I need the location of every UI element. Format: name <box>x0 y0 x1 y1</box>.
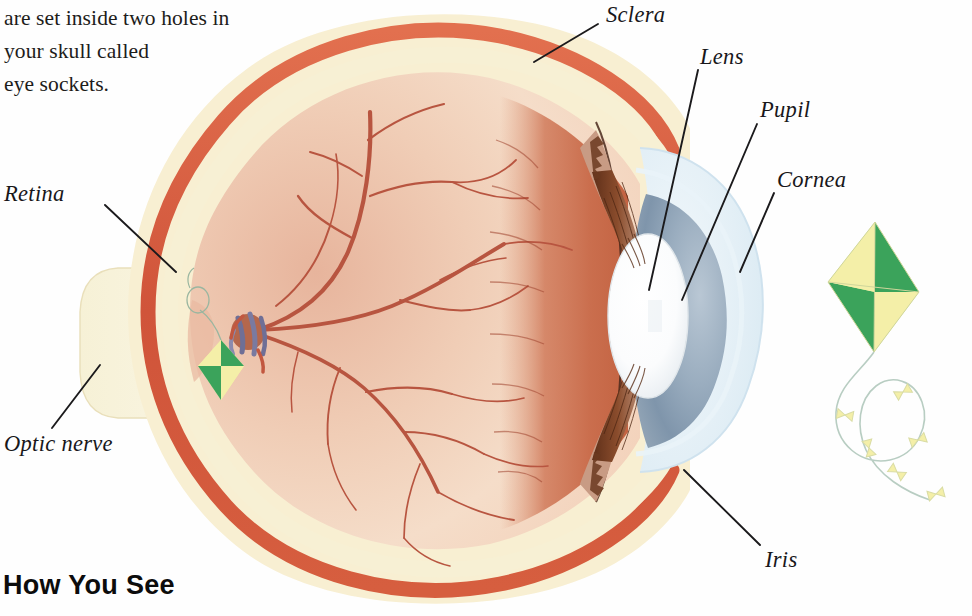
page: are set inside two holes in your skull c… <box>0 0 972 616</box>
label-iris: Iris <box>765 547 797 573</box>
body-line-2: your skull called <box>4 35 304 68</box>
label-cornea: Cornea <box>777 167 846 193</box>
body-paragraph: are set inside two holes in your skull c… <box>4 2 304 101</box>
kite-tail-bows <box>836 384 945 501</box>
label-sclera: Sclera <box>606 2 665 28</box>
label-optic-nerve: Optic nerve <box>4 431 113 457</box>
section-heading: How You See <box>3 570 175 601</box>
body-line-3: eye sockets. <box>4 68 304 101</box>
label-retina: Retina <box>4 181 65 207</box>
label-pupil: Pupil <box>760 97 810 123</box>
label-lens: Lens <box>700 44 744 70</box>
kite-tail <box>836 352 930 500</box>
body-line-1: are set inside two holes in <box>4 2 304 35</box>
